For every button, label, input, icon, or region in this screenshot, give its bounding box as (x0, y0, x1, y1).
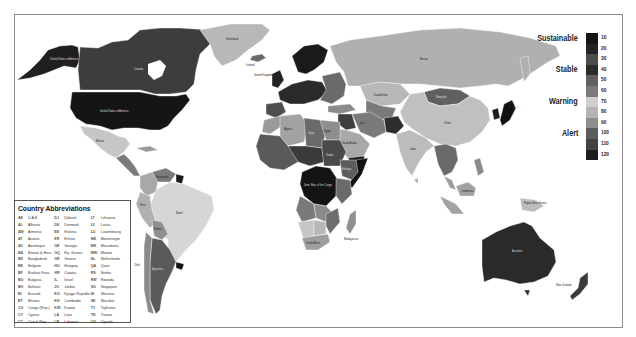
abbreviation-country-name: Slovakia (101, 298, 115, 305)
abbreviation-row: DKDenmark (54, 222, 90, 229)
country-uruguay[interactable] (176, 262, 184, 270)
abbreviation-row: BGBulgaria (18, 277, 54, 284)
abbreviation-code: KG (54, 291, 64, 298)
legend-value: 100 (601, 129, 609, 135)
abbreviation-row: HRCroatia (54, 270, 90, 277)
abbreviation-row: DJDjibouti (54, 215, 90, 222)
abbreviation-code: BH (18, 284, 28, 291)
abbreviation-country-name: Austria (28, 236, 39, 243)
country-png[interactable] (520, 198, 544, 212)
abbreviation-country-name: Bosnia & Herz. (28, 250, 52, 257)
legend-value: 50 (601, 76, 606, 82)
abbreviation-row: BIBurundi (18, 291, 54, 298)
abbreviation-country-name: Singapore (101, 284, 117, 291)
abbreviation-country-name: Georgia (64, 243, 77, 250)
abbreviation-code: QA (91, 263, 101, 270)
country-malaysia[interactable] (444, 176, 456, 190)
label-algeria: Algeria (284, 127, 293, 131)
country-sri-lanka[interactable] (414, 178, 418, 184)
country-uk[interactable] (272, 70, 284, 88)
abbreviation-row: SISlovenia (91, 291, 127, 298)
abbreviation-country-name: Kuwait (64, 305, 75, 312)
legend-value: 90 (601, 119, 606, 125)
abbreviation-row: TNTunisia (91, 312, 127, 319)
label-south-africa: South Africa (306, 241, 321, 245)
country-iceland[interactable] (250, 54, 266, 62)
abbreviations-columns: AEU.A.E.ALAlbaniaAMArmeniaATAustriaAZAze… (18, 215, 127, 326)
abbreviation-code: BI (18, 291, 28, 298)
country-alaska[interactable] (17, 45, 80, 80)
country-usa[interactable] (70, 92, 190, 130)
label-argentina: Argentina (152, 267, 164, 271)
abbreviation-code: IL (54, 277, 64, 284)
abbreviation-code: LV (91, 222, 101, 229)
abbreviation-code: AM (18, 229, 28, 236)
abbreviation-country-name: Jordan (64, 284, 75, 291)
abbreviation-country-name: Lebanon (64, 319, 78, 326)
label-indonesia: Indonesia (462, 189, 474, 193)
abbreviation-code: LA (54, 312, 64, 319)
region-scandinavia[interactable] (292, 44, 328, 74)
country-cuba[interactable] (136, 146, 158, 152)
region-southeast-asia[interactable] (434, 144, 458, 176)
country-botswana[interactable] (314, 220, 326, 236)
country-mexico[interactable] (80, 126, 130, 158)
abbreviation-row: AZAzerbaijan (18, 243, 54, 250)
abbreviation-country-name: Burkina Faso (28, 270, 49, 277)
abbreviation-country-name: Tunisia (101, 312, 112, 319)
abbreviation-country-name: Montenegro (101, 236, 120, 243)
abbreviation-row: LBLebanon (54, 319, 90, 326)
region-east-africa[interactable] (336, 178, 352, 204)
legend-swatch (586, 150, 598, 161)
abbreviation-country-name: Eritrea (64, 236, 75, 243)
country-morocco[interactable] (262, 116, 282, 134)
legend-swatch (586, 118, 598, 129)
abbreviation-code: GR (54, 256, 64, 263)
abbreviation-code: BA (18, 250, 28, 257)
country-sumatra[interactable] (440, 196, 464, 214)
country-turkey[interactable] (328, 104, 356, 114)
abbreviation-row: JOJordan (54, 284, 90, 291)
abbreviations-column: AEU.A.E.ALAlbaniaAMArmeniaATAustriaAZAze… (18, 215, 54, 326)
abbreviation-row: GQEq. Guinea (54, 250, 90, 257)
legend-value: 30 (601, 55, 606, 61)
abbreviation-row: GEGeorgia (54, 243, 90, 250)
abbreviation-country-name: Denmark (64, 222, 79, 229)
legend-value: 120 (601, 151, 609, 157)
abbreviation-code: KW (54, 305, 64, 312)
country-tasmania[interactable] (524, 290, 530, 296)
abbreviation-row: MWMalawi (91, 250, 127, 257)
legend-value: 40 (601, 66, 606, 72)
abbreviation-code: DJ (54, 215, 64, 222)
country-philippines[interactable] (474, 158, 484, 176)
abbreviation-row: RSSerbia (91, 270, 127, 277)
country-canada[interactable] (78, 28, 218, 94)
region-western-europe[interactable] (278, 80, 328, 104)
country-guiana[interactable] (176, 174, 184, 184)
abbreviation-code: AZ (18, 243, 28, 250)
country-japan[interactable] (500, 100, 516, 126)
country-korea[interactable] (492, 108, 500, 120)
legend-swatch (586, 65, 598, 76)
abbreviation-code: AL (18, 222, 28, 229)
country-madagascar[interactable] (346, 210, 356, 234)
abbreviation-code: MW (91, 250, 101, 257)
country-afghanistan[interactable] (384, 116, 404, 134)
abbreviation-row: BHBahrain (18, 284, 54, 291)
legend-swatch (586, 44, 598, 55)
label-sudan: Sudan (326, 153, 334, 157)
region-central-america[interactable] (116, 154, 140, 176)
abbreviation-country-name: Netherlands (101, 256, 120, 263)
label-mexico: Mexico (96, 139, 105, 143)
abbreviation-country-name: Burundi (28, 291, 40, 298)
abbreviation-code: NL (91, 256, 101, 263)
country-indonesia[interactable] (456, 182, 476, 196)
abbreviation-code: EE (54, 229, 64, 236)
label-greenland: Greenland (226, 37, 239, 41)
legend-value: 70 (601, 98, 606, 104)
abbreviation-country-name: Bhutan (28, 298, 39, 305)
label-usa: United States of America (100, 109, 129, 113)
country-new-zealand[interactable] (570, 272, 588, 300)
country-australia[interactable] (482, 222, 556, 284)
abbreviation-country-name: Laos (64, 312, 72, 319)
